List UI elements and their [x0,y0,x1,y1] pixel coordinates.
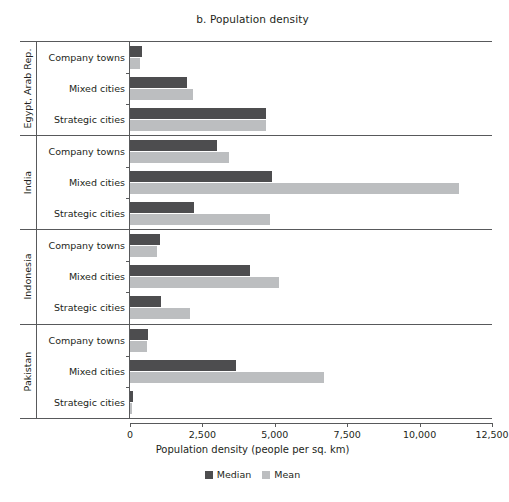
category-tick [126,292,130,293]
bar-mean [130,89,193,100]
bar-median [130,234,160,245]
x-axis-tick [492,423,493,427]
x-axis-tick [275,423,276,427]
category-tick [126,261,130,262]
category-bar-pair [130,292,492,323]
x-axis-tick-label: 5,000 [261,429,288,440]
legend-label: Median [217,469,252,480]
bar-mean [130,120,266,131]
category-label: Strategic cities [37,104,129,135]
category-bar-pair [130,356,492,387]
category-tick [126,356,130,357]
category-label: Strategic cities [37,198,129,229]
country-group: PakistanCompany townsMixed citiesStrateg… [20,325,492,420]
category-bar-pair [130,42,492,73]
category-label-column: Company townsMixed citiesStrategic citie… [37,42,130,135]
category-bar-pair [130,104,492,135]
country-label-text: Indonesia [23,254,34,300]
category-bar-pair [130,325,492,356]
category-label: Company towns [37,230,129,261]
category-label: Mixed cities [37,167,129,198]
category-tick [126,104,130,105]
country-label: Egypt, Arab Rep. [20,42,37,135]
bars-column [130,42,492,135]
bar-median [130,265,250,276]
category-bar-pair [130,73,492,104]
bar-median [130,296,161,307]
x-axis-tick-label: 2,500 [189,429,216,440]
bar-mean [130,183,459,194]
country-group: IndiaCompany townsMixed citiesStrategic … [20,136,492,231]
bars-column [130,230,492,324]
legend-item-mean[interactable]: Mean [262,469,300,480]
x-axis-line: 02,5005,0007,50010,00012,500 [130,423,492,424]
bar-mean [130,152,229,163]
country-label-text: Pakistan [23,351,34,391]
country-label: Pakistan [20,325,37,419]
legend-item-median[interactable]: Median [205,469,252,480]
bar-mean [130,277,279,288]
bar-median [130,329,148,340]
category-label: Mixed cities [37,73,129,104]
x-axis-tick-label: 7,500 [334,429,361,440]
category-label: Mixed cities [37,356,129,387]
bars-column [130,325,492,419]
bar-median [130,360,236,371]
country-label: Indonesia [20,230,37,324]
category-bar-pair [130,387,492,418]
bar-mean [130,341,147,352]
country-label-text: India [23,171,34,194]
category-label: Company towns [37,325,129,356]
bar-median [130,171,272,182]
bar-mean [130,58,140,69]
country-group: Egypt, Arab Rep.Company townsMixed citie… [20,41,492,136]
category-bar-pair [130,198,492,229]
legend-swatch-median-icon [205,471,213,479]
plot-area: Egypt, Arab Rep.Company townsMixed citie… [20,41,492,423]
x-axis-tick-label: 0 [127,429,133,440]
category-label-column: Company townsMixed citiesStrategic citie… [37,230,130,324]
x-axis-title: Population density (people per sq. km) [0,444,505,455]
bar-median [130,140,217,151]
bar-median [130,46,142,57]
category-label: Company towns [37,42,129,73]
bar-median [130,108,266,119]
bar-median [130,77,187,88]
legend-label: Mean [274,469,300,480]
country-label-text: Egypt, Arab Rep. [23,48,34,128]
chart-title: b. Population density [0,13,505,25]
x-axis-tick [202,423,203,427]
category-label: Company towns [37,136,129,167]
x-axis-tick-label: 10,000 [403,429,436,440]
chart-legend: MedianMean [0,469,505,480]
legend-swatch-mean-icon [262,471,270,479]
category-bar-pair [130,230,492,261]
bar-mean [130,214,270,225]
x-axis-tick [347,423,348,427]
category-bar-pair [130,261,492,292]
category-bar-pair [130,136,492,167]
x-axis-tick [130,423,131,427]
bar-mean [130,403,132,414]
category-bar-pair [130,167,492,198]
category-label: Mixed cities [37,261,129,292]
category-label: Strategic cities [37,387,129,418]
category-tick [126,198,130,199]
bar-median [130,202,194,213]
x-axis-tick-label: 12,500 [475,429,508,440]
category-label-column: Company townsMixed citiesStrategic citie… [37,136,130,230]
bar-mean [130,308,190,319]
bar-mean [130,372,324,383]
category-tick [126,167,130,168]
category-label: Strategic cities [37,292,129,323]
country-label: India [20,136,37,230]
category-tick [126,387,130,388]
bar-mean [130,246,157,257]
category-tick [126,73,130,74]
x-axis-tick [420,423,421,427]
bars-column [130,136,492,230]
country-group: IndonesiaCompany townsMixed citiesStrate… [20,230,492,325]
bar-median [130,391,133,402]
category-label-column: Company townsMixed citiesStrategic citie… [37,325,130,419]
